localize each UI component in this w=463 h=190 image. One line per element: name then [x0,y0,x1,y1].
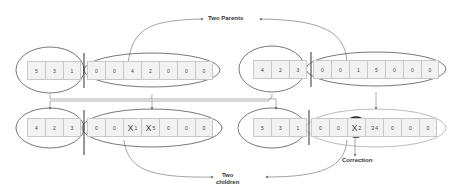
child1-arrow [124,140,213,177]
gene-cell: 0 [419,118,437,137]
gene-cell: 0 [421,60,439,79]
parent1-tail: 0 0 4 2 0 0 0 [87,61,213,80]
gene-cell: 0 [313,60,331,79]
gene-cell-corrected: X 2 [347,118,365,137]
gene-cell: 1 [63,61,81,80]
two-children-line1: Two [216,172,239,179]
gene-cell: 3 [271,118,289,137]
gene-cell: 0 [401,118,419,137]
gene-value: 4 [375,125,378,131]
gene-cell: 4 [253,60,271,79]
gene-cell: 2 [45,118,63,137]
struck-mark: X [146,123,152,133]
gene-value: 2 [359,125,362,131]
two-children-line2: children [216,179,239,186]
gene-cell: 0 [331,60,349,79]
gene-value: 1 [135,125,138,131]
gene-cell: 0 [195,118,213,137]
gene-cell-crossed: X 5 [141,118,159,137]
struck-mark: 3 [371,125,374,131]
two-parents-label: Two Parents [208,15,243,22]
gene-cell: 5 [253,118,271,137]
child1-tail: 0 0 X 1 X 5 0 0 0 [87,118,213,137]
gene-cell: 0 [159,118,177,137]
struck-mark: X [128,123,134,133]
gene-cell: 0 [329,118,347,137]
gene-cell-crossed: 3 4 [365,118,383,137]
gene-cell: 0 [311,118,329,137]
gene-cell: 0 [105,118,123,137]
gene-cell: 0 [177,118,195,137]
gene-cell: 0 [385,60,403,79]
gene-cell: 0 [403,60,421,79]
gene-cell: 3 [45,61,63,80]
diagram-lines [0,0,463,190]
gene-cell: 0 [105,61,123,80]
gene-cell: 5 [27,61,45,80]
child2-tail: 0 0 X 2 3 4 0 0 0 [311,118,437,137]
gene-cell: 4 [123,61,141,80]
child2-arrow [266,140,347,177]
gene-cell: 1 [289,118,307,137]
gene-cell: 0 [383,118,401,137]
parent1-head: 5 3 1 [27,61,81,80]
parent2-tail: 0 0 1 5 0 0 0 [313,60,439,79]
gene-cell: 2 [271,60,289,79]
gene-cell: 0 [87,118,105,137]
crossover-connectors [50,92,376,109]
two-children-label: Two children [216,172,239,186]
gene-cell: 0 [87,61,105,80]
gene-cell: 1 [349,60,367,79]
gene-cell: 0 [159,61,177,80]
parent1-arrow [128,19,203,64]
gene-cell: 0 [177,61,195,80]
parent2-head: 4 2 3 [253,60,307,79]
crossover-diagram: Two Parents Two children Correction 5 3 … [0,0,463,190]
child2-head: 5 3 1 [253,118,307,137]
gene-cell: 4 [27,118,45,137]
parent2-arrow [260,19,347,64]
correction-label: Correction [342,157,372,164]
gene-cell: 0 [195,61,213,80]
struck-mark: X [352,123,358,133]
gene-cell: 2 [141,61,159,80]
gene-cell: 3 [289,60,307,79]
gene-value: 5 [153,125,156,131]
gene-cell: 5 [367,60,385,79]
gene-cell-crossed: X 1 [123,118,141,137]
child1-head: 4 2 3 [27,118,81,137]
gene-cell: 3 [63,118,81,137]
